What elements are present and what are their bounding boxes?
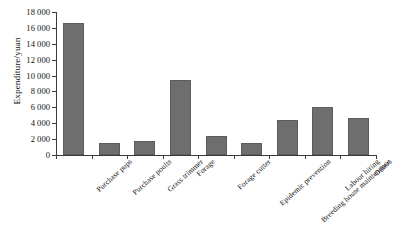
x-axis-label-wrapper: Epidemic prevention: [277, 157, 332, 207]
bar-grass-trimmer: [134, 141, 155, 155]
x-axis-line: [56, 155, 376, 156]
bar-forage-cutter: [206, 136, 227, 155]
x-axis-tick-label: Purchase pups: [94, 157, 133, 194]
y-axis-tick-label: 6 000: [31, 102, 50, 112]
x-axis-label-wrapper: Purchase poults: [131, 157, 174, 197]
x-axis-label-wrapper: Forage cutter: [236, 157, 273, 192]
bar-purchase-pups: [63, 23, 84, 155]
y-axis-title: Expenditure/yuan: [12, 11, 22, 131]
bar-breeding-house-maintenance: [277, 120, 298, 155]
bar-epidemic-prevention: [241, 143, 262, 155]
bar-others: [348, 118, 369, 155]
bar-purchase-poults: [99, 143, 120, 155]
y-axis-tick-label: 4 000: [31, 118, 50, 128]
plot-area: 02 0004 0006 0008 00010 00012 00014 0001…: [56, 12, 376, 155]
y-axis-tick-label: 10 000: [26, 71, 50, 81]
y-axis-tick-label: 18 000: [26, 7, 50, 17]
x-axis-tick-label: Epidemic prevention: [277, 157, 332, 207]
y-axis-tick-label: 8 000: [31, 86, 50, 96]
y-axis-tick-label: 0: [46, 150, 50, 160]
bars-layer: [56, 12, 376, 155]
bar-labour-hiring: [312, 107, 333, 155]
bar-forage: [170, 80, 191, 155]
x-axis-tick-label: Forage cutter: [236, 157, 273, 192]
y-axis-tick-label: 16 000: [26, 23, 50, 33]
x-axis-tick-label: Purchase poults: [131, 157, 174, 197]
y-axis-tick-label: 12 000: [26, 55, 50, 65]
x-axis-labels: Purchase pupsPurchase poultsGrass trimme…: [56, 157, 383, 252]
y-axis-tick-label: 2 000: [31, 134, 50, 144]
x-axis-label-wrapper: Purchase pups: [94, 157, 133, 194]
y-axis-tick-label: 14 000: [26, 39, 50, 49]
